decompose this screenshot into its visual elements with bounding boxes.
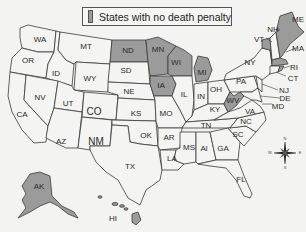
label-wv: WV bbox=[227, 96, 241, 105]
label-va: VA bbox=[245, 107, 256, 116]
label-ct: CT bbox=[288, 74, 299, 83]
label-ok: OK bbox=[140, 131, 152, 140]
label-mi: MI bbox=[198, 68, 207, 77]
label-nc: NC bbox=[240, 117, 252, 126]
label-nd: ND bbox=[122, 46, 134, 55]
label-or: OR bbox=[22, 56, 34, 65]
label-hi: HI bbox=[109, 214, 117, 223]
label-ms: MS bbox=[183, 143, 195, 152]
label-il: IL bbox=[181, 90, 188, 99]
svg-text:N: N bbox=[284, 136, 287, 141]
label-ar: AR bbox=[163, 133, 174, 142]
label-mt: MT bbox=[80, 42, 92, 51]
label-vt: VT bbox=[254, 35, 264, 44]
label-wy: WY bbox=[84, 74, 98, 83]
label-pa: PA bbox=[236, 77, 247, 86]
svg-text:S: S bbox=[284, 165, 287, 170]
label-me: ME bbox=[292, 15, 304, 24]
label-mn: MN bbox=[152, 45, 165, 54]
legend-label: States with no death penalty bbox=[99, 11, 231, 23]
label-oh: OH bbox=[210, 85, 222, 94]
label-la: LA bbox=[167, 154, 177, 163]
state-ma[interactable] bbox=[272, 58, 288, 66]
label-mo: MO bbox=[160, 109, 173, 118]
label-nm: NM bbox=[88, 136, 104, 147]
label-sd: SD bbox=[120, 66, 131, 75]
label-ia: IA bbox=[157, 81, 165, 90]
label-tx: TX bbox=[125, 162, 136, 171]
label-nv: NV bbox=[34, 93, 46, 102]
label-al: Al bbox=[200, 144, 207, 153]
label-sc: SC bbox=[232, 130, 243, 139]
legend: States with no death penalty bbox=[82, 7, 232, 26]
svg-text:W: W bbox=[268, 150, 272, 155]
label-ri: RI bbox=[290, 63, 298, 72]
label-ks: KS bbox=[131, 109, 142, 118]
label-id: ID bbox=[52, 69, 60, 78]
label-md: MD bbox=[272, 102, 285, 111]
label-ny: NY bbox=[244, 58, 256, 67]
compass-rose-icon: N S E W bbox=[268, 136, 302, 170]
label-ak: AK bbox=[34, 182, 45, 191]
label-wa: WA bbox=[34, 35, 47, 44]
label-wi: WI bbox=[171, 58, 181, 67]
label-fl: FL bbox=[236, 175, 246, 184]
label-in: IN bbox=[197, 92, 205, 101]
label-ky: KY bbox=[210, 105, 221, 114]
label-tn: TN bbox=[201, 121, 212, 130]
us-map: WA OR CA ID NV MT WY UT CO AZ NM ND SD N… bbox=[0, 0, 306, 232]
legend-swatch bbox=[88, 10, 93, 23]
label-ca: CA bbox=[16, 110, 28, 119]
svg-text:E: E bbox=[299, 150, 302, 155]
label-ut: UT bbox=[63, 99, 74, 108]
state-ak[interactable] bbox=[18, 172, 78, 218]
label-ga: GA bbox=[217, 144, 229, 153]
label-nh: NH bbox=[267, 25, 279, 34]
label-ne: NE bbox=[123, 87, 134, 96]
label-az: AZ bbox=[56, 137, 66, 146]
label-co: CO bbox=[87, 106, 102, 117]
label-ma: MA bbox=[292, 44, 305, 53]
